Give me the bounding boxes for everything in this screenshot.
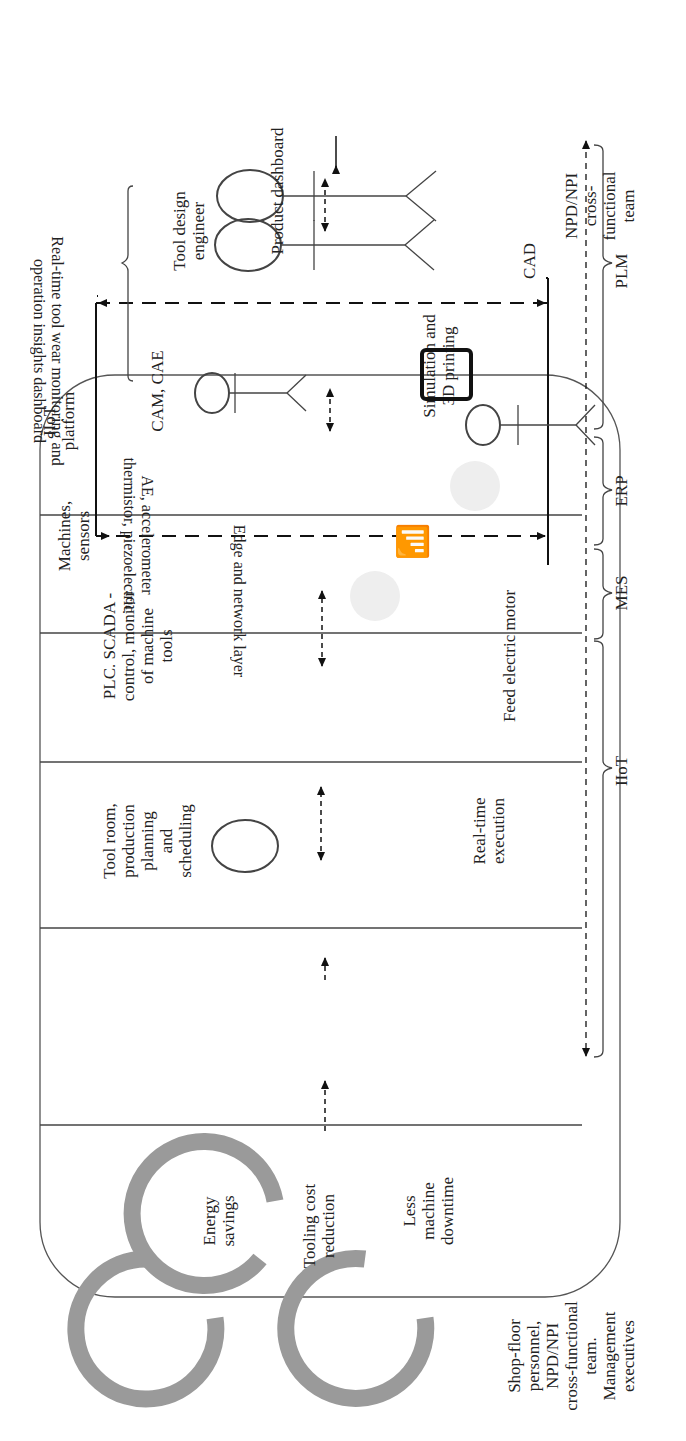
col-tool-design-title: Tool designengineer <box>170 181 208 281</box>
sensor-types-label: AE, accelerometerthermistor, piezoelectr… <box>120 435 156 635</box>
product-dashboard-label: Product dashboard <box>268 116 287 266</box>
col-cam-cae-title: CAM, CAE <box>148 341 167 441</box>
right-external-actor-label: Shop-floor personnel, NPD/NPI cross-func… <box>505 1301 638 1411</box>
system-label-iiot: IIoT <box>612 731 631 811</box>
col-plc-feed-motor: Feed electric motor <box>500 571 519 741</box>
benefit-tooling-label: Tooling costreduction <box>300 1176 338 1276</box>
col-machines-title: Machines,sensors <box>55 491 93 581</box>
system-label-erp: ERP <box>612 451 631 531</box>
system-label-plm: PLM <box>612 231 631 311</box>
col-tool-room-realtime: Real-timeexecution <box>470 781 508 881</box>
machine-tool-icon <box>450 461 500 511</box>
system-label-mes: MES <box>612 553 631 633</box>
col-tool-design-cad: CAD <box>520 231 539 291</box>
benefit-ring-downtime <box>286 1258 426 1398</box>
integration-diagram: Energysavings Tooling costreduction Less… <box>0 0 686 1441</box>
edge-network-label: Edge and network layer <box>230 506 248 696</box>
col-tool-room-title: Tool room, production planning and sched… <box>100 781 195 901</box>
dashboard-chart-icon <box>420 348 473 401</box>
wireless-signal-icon: 📶 <box>395 521 435 561</box>
machine-tool-icon <box>350 571 400 621</box>
iiot-dashboard-label: Real-time tool wear monitoring andoperat… <box>30 201 66 501</box>
benefit-downtime-label: Lessmachinedowntime <box>400 1171 457 1251</box>
benefit-energy-label: Energysavings <box>200 1181 238 1261</box>
